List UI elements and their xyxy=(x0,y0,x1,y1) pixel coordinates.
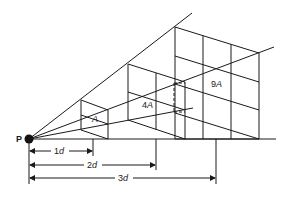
rays xyxy=(29,13,274,139)
dimension-1d: 1d xyxy=(30,146,92,156)
ray-center xyxy=(29,108,193,139)
svg-text:2d: 2d xyxy=(87,160,98,170)
dimension-3d: 3d xyxy=(30,173,215,183)
inverse-square-diagram: A 4A 9A P 1d 2d 3d xyxy=(0,0,289,197)
area-label-4a: 4A xyxy=(142,100,153,110)
point-source-label: P xyxy=(16,134,22,144)
svg-text:3d: 3d xyxy=(118,173,129,183)
dimension-2d: 2d xyxy=(30,160,155,170)
ray-upper xyxy=(29,47,274,139)
area-label-a: A xyxy=(91,114,98,124)
area-2d xyxy=(128,64,185,139)
svg-text:1d: 1d xyxy=(54,146,65,156)
hidden-lines xyxy=(174,83,185,112)
area-label-9a: 9A xyxy=(211,79,222,89)
